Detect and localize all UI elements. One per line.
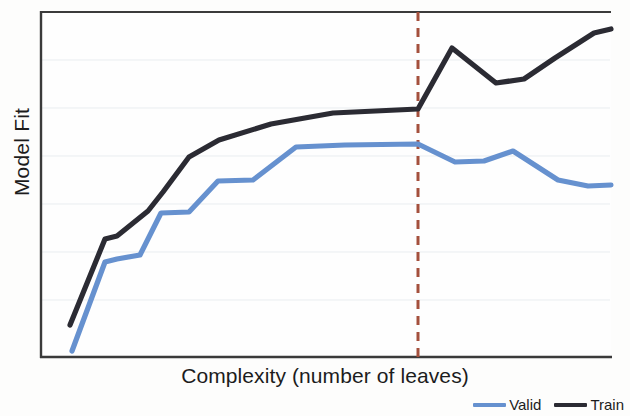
legend-item-valid[interactable]: Valid [473, 396, 541, 413]
legend-label-valid: Valid [509, 396, 541, 413]
legend-swatch-train-icon [554, 403, 587, 407]
y-axis-label: Model Fit [10, 92, 34, 212]
plot-background [40, 11, 611, 358]
legend-swatch-valid-icon [473, 403, 506, 407]
chart-legend: Valid Train [473, 396, 624, 413]
legend-item-train[interactable]: Train [554, 396, 624, 413]
legend-label-train: Train [590, 396, 624, 413]
x-axis-label: Complexity (number of leaves) [39, 364, 611, 388]
chart-figure: Model Fit Complexity (number of leaves) … [0, 0, 630, 416]
chart-plot-area [0, 0, 630, 416]
